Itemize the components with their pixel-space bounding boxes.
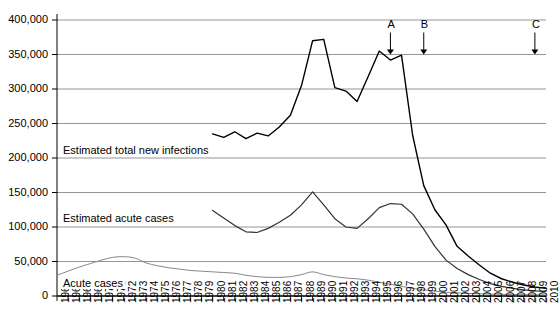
x-tick-label: 1979 [205, 281, 215, 303]
annotation-arrow-head-B [420, 50, 427, 55]
y-tick-label: 250,000 [0, 118, 48, 129]
annotation-label-A: A [387, 19, 394, 30]
x-tick-label: 1997 [406, 281, 416, 303]
series-label-3: Acute cases [61, 277, 125, 289]
x-tick-label: 2004 [483, 281, 493, 303]
x-tick-label: 1974 [150, 281, 160, 303]
x-tick-label: 2000 [439, 281, 449, 303]
series-label-1: Estimated total new infections [61, 144, 211, 156]
series-label-2: Estimated acute cases [61, 212, 176, 224]
x-tick-label: 1987 [294, 281, 304, 303]
x-tick-label: 1991 [339, 281, 349, 303]
x-tick-label: 1976 [172, 281, 182, 303]
annotation-arrow-head-A [387, 50, 394, 55]
x-tick-label: 1972 [128, 281, 138, 303]
y-tick-label: 150,000 [0, 187, 48, 198]
annotation-label-B: B [421, 19, 428, 30]
x-tick-label: 1975 [161, 281, 171, 303]
x-tick-label: 1985 [272, 281, 282, 303]
x-tick-label: 1981 [228, 281, 238, 303]
x-tick-label: 2010 [550, 281, 560, 303]
x-tick-label: 2002 [461, 281, 471, 303]
x-tick-label: 1996 [394, 281, 404, 303]
x-tick-label: 1993 [361, 281, 371, 303]
x-tick-label: 1999 [428, 281, 438, 303]
y-tick-label: 350,000 [0, 49, 48, 60]
x-tick-label: 1973 [139, 281, 149, 303]
x-tick-label: 1998 [417, 281, 427, 303]
x-tick-label: 1978 [194, 281, 204, 303]
x-tick-label: 2008 [528, 281, 538, 303]
x-tick-label: 1990 [328, 281, 338, 303]
y-tick-label: 300,000 [0, 83, 48, 94]
x-tick-label: 1980 [217, 281, 227, 303]
y-tick-label: 400,000 [0, 14, 48, 25]
x-tick-label: 1989 [317, 281, 327, 303]
x-tick-label: 1986 [283, 281, 293, 303]
y-tick-label: 100,000 [0, 221, 48, 232]
x-tick-label: 1994 [372, 281, 382, 303]
series-line-1 [213, 39, 546, 288]
x-tick-label: 1977 [183, 281, 193, 303]
x-tick-label: 1983 [250, 281, 260, 303]
x-tick-label: 2001 [450, 281, 460, 303]
x-tick-label: 2005 [494, 281, 504, 303]
x-tick-label: 2006 [506, 281, 516, 303]
x-tick-label: 1982 [239, 281, 249, 303]
x-tick-label: 1992 [350, 281, 360, 303]
x-tick-label: 1995 [383, 281, 393, 303]
y-tick-label: 200,000 [0, 152, 48, 163]
x-tick-label: 2003 [472, 281, 482, 303]
x-tick-label: 2007 [517, 281, 527, 303]
annotation-arrow-head-C [531, 50, 538, 55]
y-tick-label: 0 [0, 290, 48, 301]
x-tick-label: 2009 [539, 281, 549, 303]
x-tick-label: 1988 [306, 281, 316, 303]
annotation-label-C: C [532, 19, 540, 30]
x-tick-label: 1984 [261, 281, 271, 303]
y-tick-label: 50,000 [0, 256, 48, 267]
